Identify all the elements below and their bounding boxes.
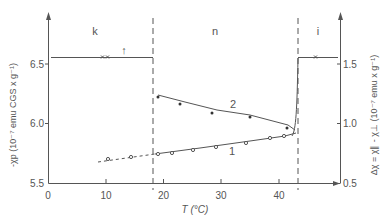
y-right-tick-1.0: 1.0 <box>343 118 357 129</box>
y-left-tick-6.5: 6.5 <box>30 59 44 70</box>
y-left-tick-6.0: 6.0 <box>30 118 44 129</box>
x-tick-10: 10 <box>100 190 112 201</box>
chart-svg: 0 10 20 30 40 T (°C) 5.5 6.0 6.5 -χp (10… <box>0 0 388 220</box>
x-axis-label: T (°C) <box>182 204 209 215</box>
clearing-point-rise <box>292 58 298 136</box>
x-tick-0: 0 <box>45 190 51 201</box>
y-left-axis-label: -χp (10⁻⁷ emu CGS x g⁻¹) <box>8 63 18 167</box>
series-top-right <box>298 56 338 59</box>
x-axis-arrow-icon <box>333 181 340 186</box>
x-ticks <box>106 179 279 183</box>
curve-label-2: 2 <box>230 98 236 110</box>
y-right-tick-1.5: 1.5 <box>343 59 357 70</box>
y-right-axis-label: Δχ = χ∥ - χ⊥ (10⁻⁷ emu x g⁻¹) <box>369 55 379 176</box>
curve-label-1: 1 <box>229 145 235 157</box>
phase-label-i: i <box>317 25 319 37</box>
y-left-tick-5.5: 5.5 <box>30 178 44 189</box>
series-1 <box>98 133 296 162</box>
phase-label-k: k <box>92 25 98 37</box>
x-tick-20: 20 <box>158 190 170 201</box>
y-axis-left-arrow-icon <box>46 12 51 20</box>
y-axis-right-arrow-icon <box>338 12 343 20</box>
arrow-up-label: ↑ <box>121 44 127 56</box>
phase-label-n: n <box>212 25 218 37</box>
series-top-left <box>51 56 153 59</box>
y-right-tick-0.5: 0.5 <box>343 178 357 189</box>
series-2 <box>157 95 296 130</box>
x-tick-40: 40 <box>273 190 285 201</box>
x-tick-30: 30 <box>215 190 227 201</box>
